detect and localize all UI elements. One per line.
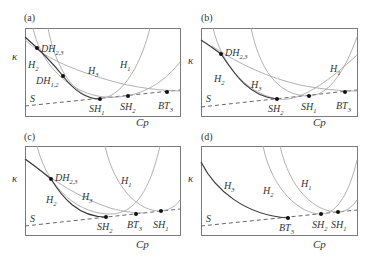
label-sh1: SH1 <box>153 219 168 232</box>
label-sh2: SH2 <box>97 221 113 234</box>
panel-label: (c) <box>24 131 35 143</box>
label-h2: H2 <box>45 194 57 207</box>
s-curve <box>25 90 180 106</box>
point-sh2 <box>104 215 108 219</box>
h3-curve <box>25 159 145 213</box>
label-bt3: BT3 <box>127 219 143 232</box>
label-h3: H3 <box>87 65 99 78</box>
label-h2: H2 <box>27 59 39 72</box>
point-sh1 <box>159 209 163 213</box>
h1-curve <box>105 146 180 211</box>
label-s: S <box>30 213 35 224</box>
point-bt3 <box>165 90 169 94</box>
point-bt3 <box>343 90 347 94</box>
panel-label: (d) <box>201 131 213 143</box>
point-sh1 <box>307 94 311 98</box>
point-dh12 <box>61 74 65 78</box>
panel-label: (b) <box>201 12 213 24</box>
label-h2: H2 <box>262 185 274 198</box>
point-bt3 <box>286 216 290 220</box>
h2-stable-branch <box>25 159 106 217</box>
h3-curve <box>201 162 288 218</box>
x-axis-label: Cp <box>313 238 326 250</box>
point-sh1 <box>98 97 102 101</box>
point-dh23 <box>35 46 39 50</box>
y-axis-label: κ <box>188 54 194 66</box>
x-axis-label: Cp <box>313 116 326 128</box>
label-h1: H1 <box>300 178 311 191</box>
y-axis-label: κ <box>188 172 194 184</box>
point-sh2 <box>126 94 130 98</box>
label-sh2: SH2 <box>120 101 136 114</box>
panel-label: (a) <box>24 12 35 24</box>
label-sh2: SH2 <box>312 219 328 232</box>
y-axis-label: κ <box>12 172 18 184</box>
y-axis-label: κ <box>12 50 18 62</box>
label-dh23: DH2,3 <box>54 172 78 185</box>
label-sh2: SH2 <box>268 103 284 116</box>
label-h1: H1 <box>119 59 130 72</box>
label-sh1: SH1 <box>301 101 316 114</box>
label-bt3: BT3 <box>279 222 295 235</box>
point-sh2 <box>275 97 279 101</box>
point-sh1 <box>336 210 340 214</box>
panel-b: (b) κ Cp DH2,3 SH2 SH1 BT3 H1 H2 H3 S <box>188 12 358 128</box>
label-bt3: BT3 <box>158 100 174 113</box>
label-h3: H3 <box>81 191 93 204</box>
x-axis-label: Cp <box>136 116 149 128</box>
h1-curve <box>280 146 357 212</box>
point-bt3 <box>134 212 138 216</box>
panel-a: (a) κ Cp DH2,3 DH1,2 SH1 SH2 BT3 H1 H2 H… <box>12 12 181 128</box>
label-sh1: SH1 <box>331 219 346 232</box>
h2-curve <box>263 146 357 214</box>
label-dh23: DH2,3 <box>224 47 248 60</box>
panel-c: (c) κ Cp DH2,3 SH2 BT3 SH1 H1 H2 H3 S <box>12 131 181 250</box>
point-sh2 <box>319 212 323 216</box>
label-h3: H3 <box>223 180 235 193</box>
panel-d: (d) κ Cp BT3 SH2 SH1 H3 H2 H1 S <box>188 131 358 250</box>
bifurcation-diagram-figure: (a) κ Cp DH2,3 DH1,2 SH1 SH2 BT3 H1 H2 H… <box>0 0 374 261</box>
point-dh23 <box>219 52 223 56</box>
label-s: S <box>206 213 211 224</box>
label-s: S <box>206 93 211 104</box>
point-dh23 <box>49 177 53 181</box>
label-s: S <box>30 93 35 104</box>
label-sh1: SH1 <box>89 103 104 116</box>
label-h2: H2 <box>213 73 225 86</box>
x-axis-label: Cp <box>136 238 149 250</box>
label-dh12: DH1,2 <box>35 75 59 88</box>
label-bt3: BT3 <box>336 100 352 113</box>
